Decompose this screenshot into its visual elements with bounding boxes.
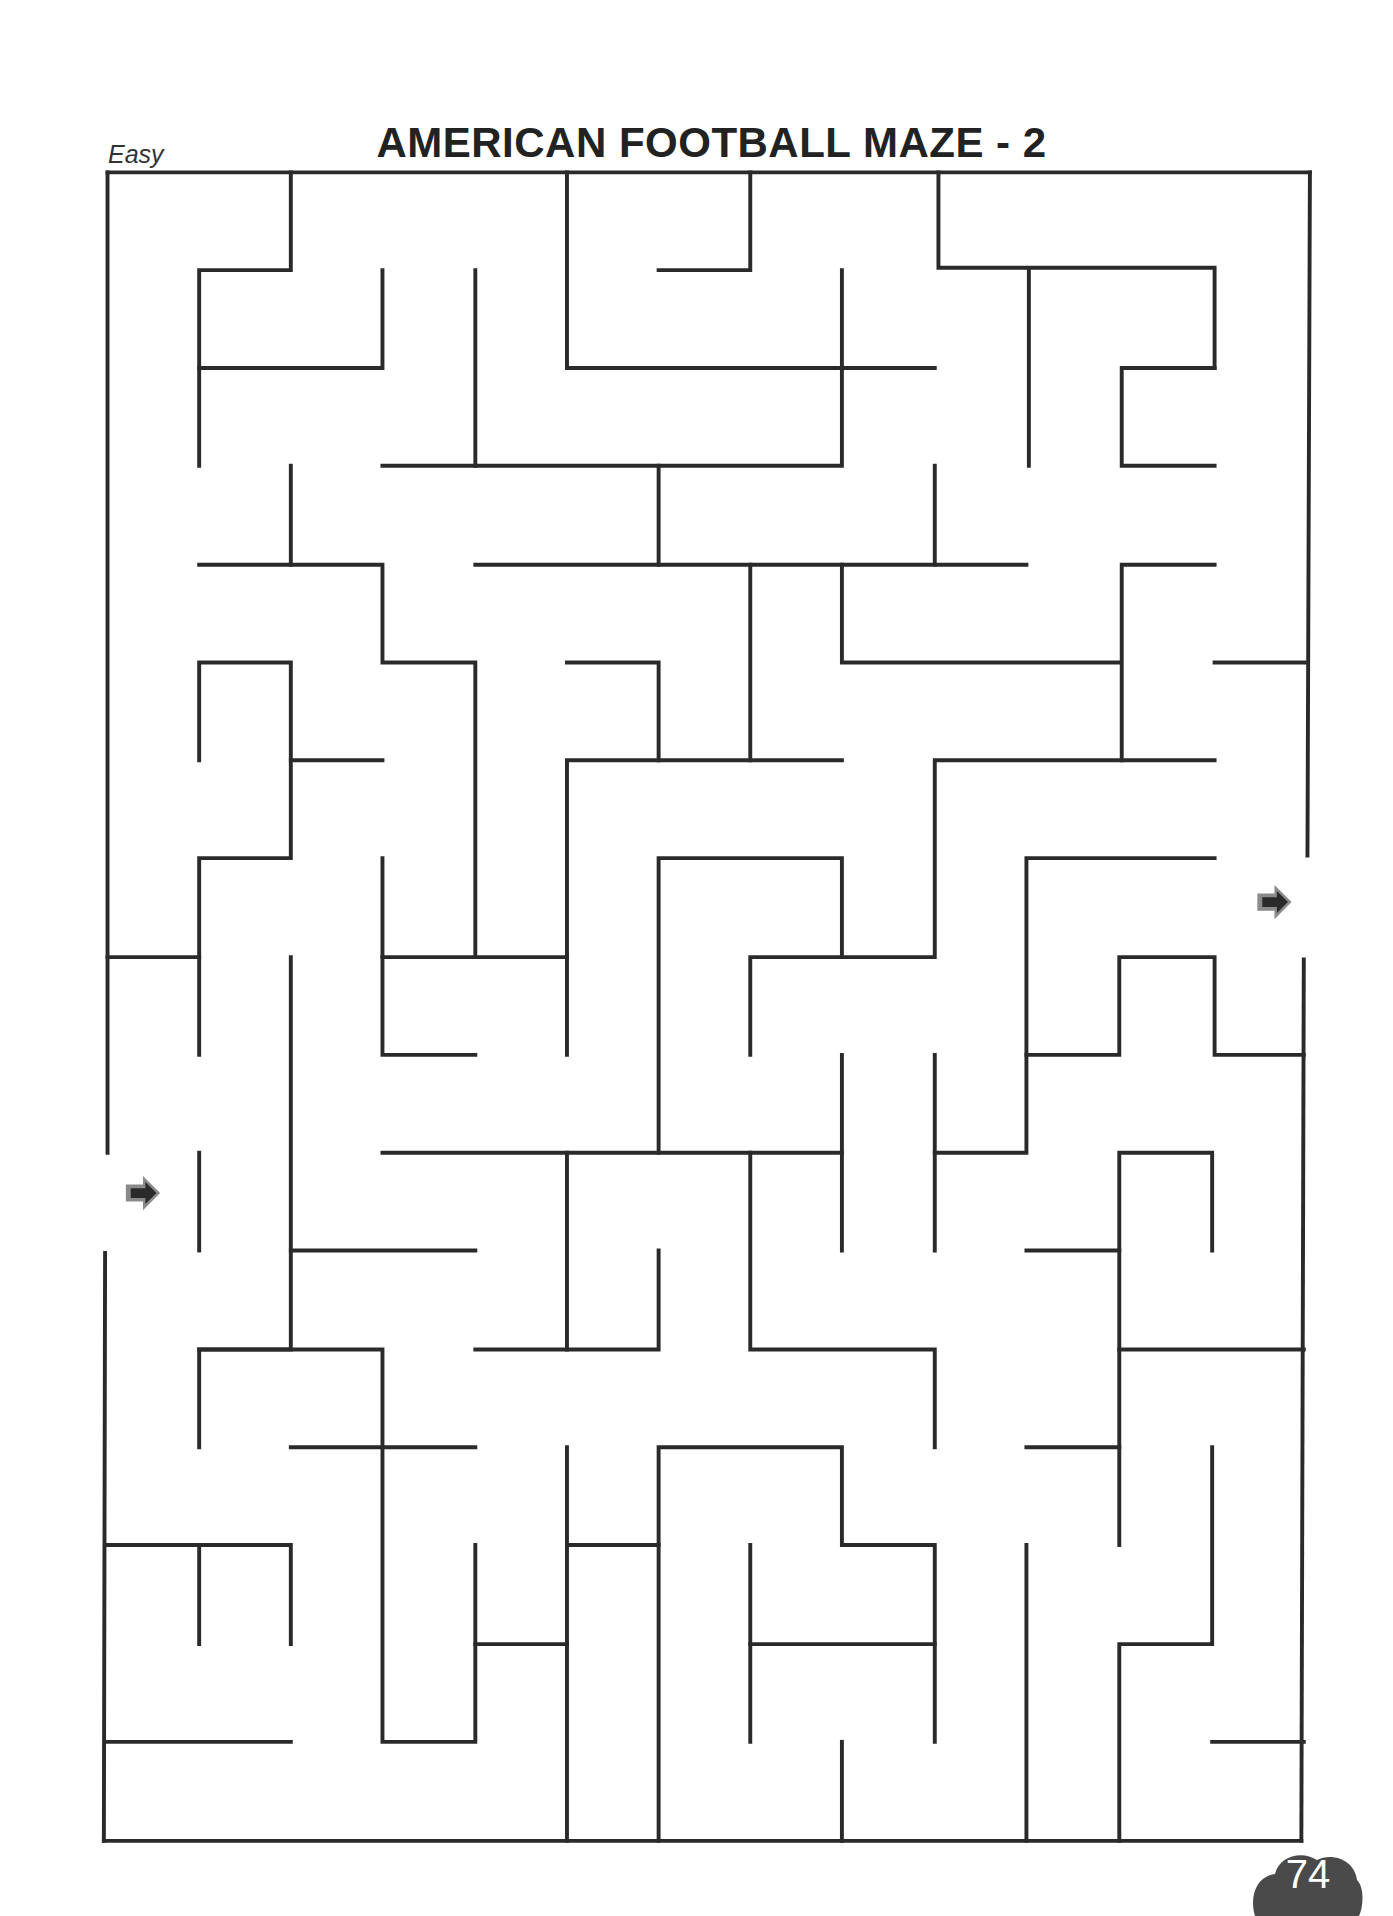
outer-wall-right-lower <box>1301 960 1303 1841</box>
entrance-arrow-icon <box>126 1176 160 1210</box>
page-number: 74 <box>1268 1852 1348 1897</box>
outer-wall-left-lower <box>104 1253 105 1841</box>
exit-arrow-icon <box>1257 885 1291 919</box>
outer-wall-right-upper <box>1307 172 1309 855</box>
maze-walls <box>104 172 1310 1841</box>
